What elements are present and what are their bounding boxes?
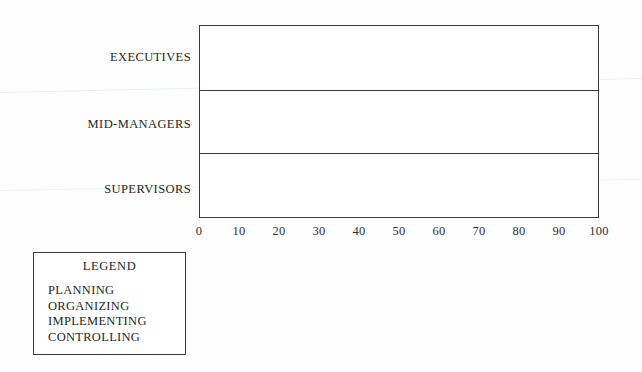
x-tick-label: 50 [392,224,405,239]
row-divider-lower [200,153,598,154]
category-label-text: EXECUTIVES [110,50,191,64]
chart-page: EXECUTIVES MID-MANAGERS SUPERVISORS 0 10… [0,0,642,372]
legend-item: CONTROLLING [48,330,185,346]
x-tick-label: 30 [312,224,325,239]
legend-item-list: PLANNING ORGANIZING IMPLEMENTING CONTROL… [48,283,185,345]
legend-item: IMPLEMENTING [48,314,185,330]
x-axis: 0 10 20 30 40 50 60 70 80 90 100 [199,224,599,242]
x-tick-label: 0 [196,224,203,239]
category-label-text: SUPERVISORS [104,182,191,196]
x-tick-label: 90 [552,224,565,239]
plot-area [199,25,599,218]
x-tick-label: 100 [589,224,609,239]
category-label-supervisors: SUPERVISORS [104,182,191,197]
x-tick-label: 80 [512,224,525,239]
x-tick-label: 40 [352,224,365,239]
bar-track-mid-managers [200,90,598,153]
row-divider-upper [200,90,598,91]
legend-title: LEGEND [34,259,185,274]
category-label-mid-managers: MID-MANAGERS [88,117,191,132]
legend-item: PLANNING [48,283,185,299]
x-tick-label: 60 [432,224,445,239]
x-tick-label: 70 [472,224,485,239]
category-label-executives: EXECUTIVES [110,50,191,65]
x-tick-label: 20 [272,224,285,239]
category-label-text: MID-MANAGERS [88,117,191,131]
bar-track-executives [200,26,598,90]
x-tick-label: 10 [232,224,245,239]
legend-box: LEGEND PLANNING ORGANIZING IMPLEMENTING … [33,252,186,355]
legend-item: ORGANIZING [48,299,185,315]
bar-track-supervisors [200,153,598,219]
